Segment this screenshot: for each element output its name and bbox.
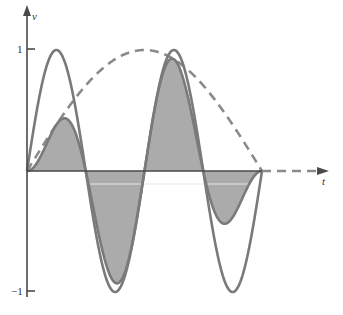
plot-area: v t 1 −1 [0,0,343,315]
y-tick-label-neg1: −1 [11,285,23,297]
y-tick-label-1: 1 [17,43,23,55]
y-axis-label: v [32,10,37,22]
y-axis-arrow-icon [23,5,31,16]
x-axis-arrow-icon [317,167,329,175]
x-axis-label: t [322,175,326,187]
chart: v t 1 −1 [0,0,343,315]
